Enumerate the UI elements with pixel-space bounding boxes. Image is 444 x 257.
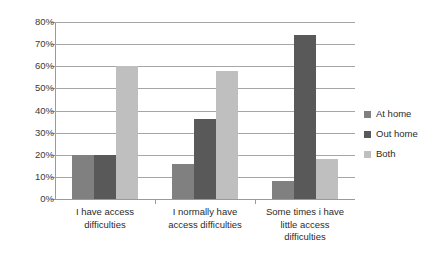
legend-swatch-icon xyxy=(364,131,371,138)
x-tick-mark xyxy=(155,199,156,204)
bar-chart: 0%10%20%30%40%50%60%70%80% I have access… xyxy=(0,0,444,257)
legend-item[interactable]: Both xyxy=(364,144,418,164)
y-tick-label: 70% xyxy=(10,39,54,49)
y-tick-label: 30% xyxy=(10,128,54,138)
legend-swatch-icon xyxy=(364,111,371,118)
legend-label: Both xyxy=(376,149,396,159)
y-tick-label: 60% xyxy=(10,61,54,71)
y-tick-label: 0% xyxy=(10,194,54,204)
bar[interactable] xyxy=(194,119,216,199)
x-axis-label: Some times i havelittle accessdifficulti… xyxy=(246,206,364,244)
legend-label: At home xyxy=(376,109,411,119)
legend-label: Out home xyxy=(376,129,418,139)
legend-item[interactable]: Out home xyxy=(364,124,418,144)
bar[interactable] xyxy=(72,155,94,199)
x-tick-mark xyxy=(255,199,256,204)
legend-swatch-icon xyxy=(364,151,371,158)
bar[interactable] xyxy=(216,71,238,199)
y-tick-label: 80% xyxy=(10,17,54,27)
legend-item[interactable]: At home xyxy=(364,104,418,124)
bar-group xyxy=(255,22,355,199)
plot-area xyxy=(55,22,355,199)
bar[interactable] xyxy=(172,164,194,199)
chart-legend: At homeOut homeBoth xyxy=(364,104,418,164)
bar-group xyxy=(155,22,255,199)
bar[interactable] xyxy=(272,181,294,199)
y-tick-label: 50% xyxy=(10,83,54,93)
y-tick-label: 40% xyxy=(10,106,54,116)
bar[interactable] xyxy=(94,155,116,199)
bar-group xyxy=(55,22,155,199)
bar[interactable] xyxy=(116,66,138,199)
gridline xyxy=(55,199,355,200)
y-tick-label: 20% xyxy=(10,150,54,160)
bar[interactable] xyxy=(316,159,338,199)
y-tick-label: 10% xyxy=(10,172,54,182)
bar[interactable] xyxy=(294,35,316,199)
